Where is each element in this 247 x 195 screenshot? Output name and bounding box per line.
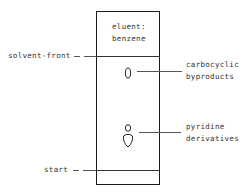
- pyridine-leader-line: [139, 132, 181, 133]
- pyridine-label-line1: pyridine: [186, 121, 225, 133]
- pyridine-spot-small: [125, 125, 130, 132]
- carbocyclic-label-line1: carbocyclic: [186, 59, 239, 71]
- carbocyclic-label-line2: byproducts: [186, 71, 234, 83]
- pyridine-spot-large: [123, 134, 132, 147]
- spots-layer: [0, 0, 247, 195]
- pyridine-label-line2: derivatives: [186, 133, 239, 145]
- carbocyclic-leader-line: [137, 71, 182, 72]
- carbocyclic-spot: [125, 68, 130, 78]
